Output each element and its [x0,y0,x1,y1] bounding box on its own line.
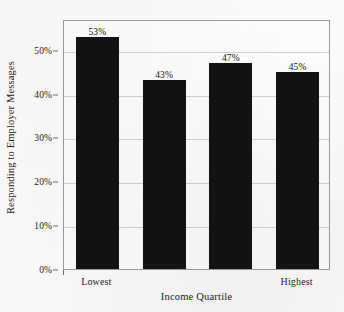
y-tick-label: 30% [34,133,52,143]
bar-chart-figure: Responding to Employer Messages 0%10%20%… [0,0,344,312]
y-tick-label: 10% [34,221,52,231]
y-axis-title: Responding to Employer Messages [0,0,22,275]
y-tick-mark [53,226,58,227]
plot-area: 53%43%47%45% [63,20,330,270]
bar-value-label: 45% [276,62,319,72]
bar-value-label: 53% [76,27,119,37]
bar-value-label: 43% [143,70,186,80]
x-tick-label: Highest [281,276,313,287]
bar-value-label: 47% [209,53,252,63]
y-axis-ticks: 0%10%20%30%40%50% [22,20,58,270]
bar[interactable] [276,72,319,269]
bar[interactable] [76,37,119,269]
bar[interactable] [143,80,186,269]
y-tick-label: 50% [34,46,52,56]
y-tick-mark [53,138,58,139]
bar[interactable] [209,63,252,269]
y-tick-label: 40% [34,90,52,100]
y-tick-mark [53,270,58,271]
y-tick-mark [53,94,58,95]
x-tick-mark [63,270,64,275]
y-tick-mark [53,182,58,183]
bar-series: 53%43%47%45% [64,21,329,269]
y-axis-title-text: Responding to Employer Messages [6,61,17,214]
x-axis-title: Income Quartile [63,291,330,302]
y-tick-mark [53,50,58,51]
x-tick-label: Lowest [81,276,111,287]
y-tick-label: 0% [39,265,52,275]
y-tick-label: 20% [34,177,52,187]
